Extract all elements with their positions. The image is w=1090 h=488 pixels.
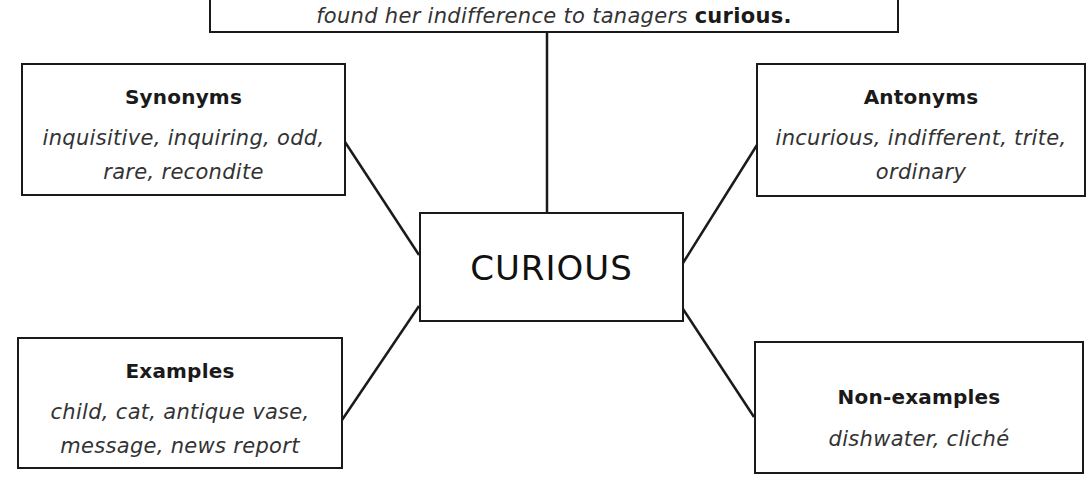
connector-antonyms [683,145,757,263]
antonyms-box: Antonyms incurious, indifferent, trite, … [756,63,1086,197]
synonyms-title: Synonyms [23,85,344,109]
antonyms-title: Antonyms [758,85,1084,109]
connector-examples [342,306,419,420]
synonyms-body: inquisitive, inquiring, odd, rare, recon… [23,121,344,189]
antonyms-body: incurious, indifferent, trite, ordinary [758,121,1084,189]
non-examples-body: dishwater, cliché [756,422,1082,456]
sentence-plain: found her indifference to tanagers [316,4,694,28]
antonyms-line-2: ordinary [758,155,1084,189]
sentence-box: found her indifference to tanagers curio… [209,0,899,33]
non-examples-line-1: dishwater, cliché [756,422,1082,456]
connector-non-examples [683,309,754,417]
examples-box: Examples child, cat, antique vase, messa… [17,337,343,469]
synonyms-line-2: rare, recondite [23,155,344,189]
center-word: CURIOUS [421,248,682,288]
examples-title: Examples [19,359,341,383]
examples-line-1: child, cat, antique vase, [19,395,341,429]
non-examples-box: Non-examples dishwater, cliché [754,341,1084,474]
non-examples-title: Non-examples [756,385,1082,409]
sentence-text: found her indifference to tanagers curio… [211,3,897,29]
sentence-emphasis: curious. [695,4,792,28]
synonyms-box: Synonyms inquisitive, inquiring, odd, ra… [21,63,346,196]
center-word-box: CURIOUS [419,212,684,322]
synonyms-line-1: inquisitive, inquiring, odd, [23,121,344,155]
examples-line-2: message, news report [19,429,341,463]
connector-synonyms [345,142,419,255]
antonyms-line-1: incurious, indifferent, trite, [758,121,1084,155]
examples-body: child, cat, antique vase, message, news … [19,395,341,463]
